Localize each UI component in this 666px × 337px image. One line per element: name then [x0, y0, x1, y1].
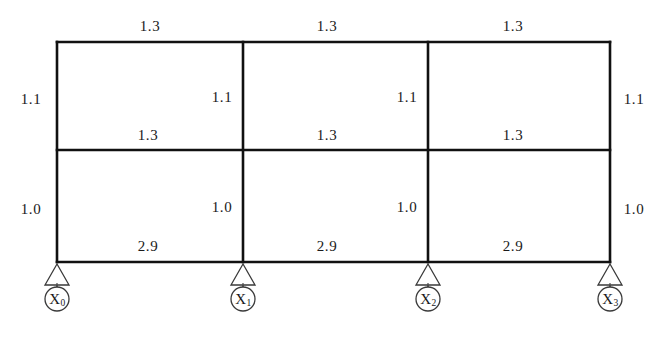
node-label-X2-name: X: [420, 291, 431, 307]
node-label-X2-index: 2: [432, 298, 437, 308]
frame-diagram-canvas: 1.3 1.3 1.3 1.1 1.1 1.1 1.1 1.3 1.3 1.3 …: [0, 0, 666, 337]
node-label-X0-index: 0: [61, 298, 66, 308]
node-label-X3-index: 3: [614, 298, 619, 308]
roof-beam-label-bay3: 1.3: [503, 19, 524, 34]
mid-beam-label-bay2: 1.3: [317, 128, 338, 143]
node-label-X1-index: 1: [247, 298, 252, 308]
structural-frame-drawing: [0, 0, 666, 337]
node-circle-group: [45, 287, 622, 311]
lower-column-label-1: 1.0: [212, 200, 233, 215]
upper-column-label-1: 1.1: [212, 90, 233, 105]
base-beam-label-bay2: 2.9: [317, 239, 338, 254]
node-label-X2: X2: [420, 292, 436, 307]
node-label-X1-name: X: [235, 291, 246, 307]
beam-group: [57, 42, 610, 262]
upper-column-label-0: 1.1: [21, 92, 42, 107]
support-triangle-icon: [598, 264, 622, 285]
column-group: [57, 42, 610, 262]
support-triangle-icon: [45, 264, 69, 285]
roof-beam-label-bay1: 1.3: [140, 19, 161, 34]
node-label-X1: X1: [235, 292, 251, 307]
upper-column-label-3: 1.1: [624, 92, 645, 107]
node-label-X3: X3: [602, 292, 618, 307]
node-label-X3-name: X: [602, 291, 613, 307]
base-beam-label-bay1: 2.9: [138, 239, 159, 254]
base-beam-label-bay3: 2.9: [503, 239, 524, 254]
upper-column-label-2: 1.1: [397, 90, 418, 105]
lower-column-label-0: 1.0: [21, 202, 42, 217]
mid-beam-label-bay3: 1.3: [503, 128, 524, 143]
support-triangle-icon: [231, 264, 255, 285]
support-triangle-icon: [416, 264, 440, 285]
mid-beam-label-bay1: 1.3: [138, 128, 159, 143]
support-group: [45, 264, 622, 288]
lower-column-label-3: 1.0: [624, 202, 645, 217]
node-label-X0: X0: [49, 292, 65, 307]
node-label-X0-name: X: [49, 291, 60, 307]
lower-column-label-2: 1.0: [397, 200, 418, 215]
roof-beam-label-bay2: 1.3: [317, 19, 338, 34]
node-leader-group: [57, 283, 610, 288]
